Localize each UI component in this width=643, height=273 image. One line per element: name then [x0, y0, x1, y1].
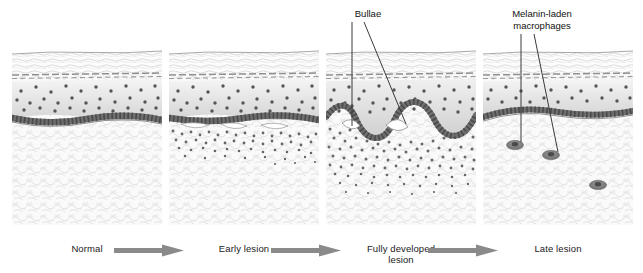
- skin-lesion-progression-diagram: Bullae Melanin-laden macrophages Normal …: [0, 0, 643, 273]
- macrophage: [507, 140, 524, 149]
- bullae-group: [181, 123, 288, 129]
- macrophage: [543, 150, 560, 159]
- arrow-normal-to-early-lesion: [114, 244, 184, 257]
- panel-early-lesion: [169, 45, 319, 225]
- callout-label-bullae: Bullae: [318, 8, 418, 20]
- macrophage: [590, 180, 607, 189]
- stage-label-late-lesion: Late lesion: [503, 243, 613, 254]
- arrow-early-lesion-to-fully-developed: [271, 244, 341, 257]
- panel-late-lesion-illustration: [483, 45, 633, 225]
- panel-early-lesion-illustration: [169, 45, 319, 225]
- panel-normal-illustration: [12, 45, 162, 225]
- panel-fully-developed-illustration: [326, 45, 476, 225]
- callout-label-melanin-laden-macrophages: Melanin-laden macrophages: [487, 8, 597, 31]
- panel-late-lesion: [483, 45, 633, 225]
- panel-normal: [12, 45, 162, 225]
- arrow-fully-developed-to-late-lesion: [428, 244, 498, 257]
- panel-fully-developed-lesion: [326, 45, 476, 225]
